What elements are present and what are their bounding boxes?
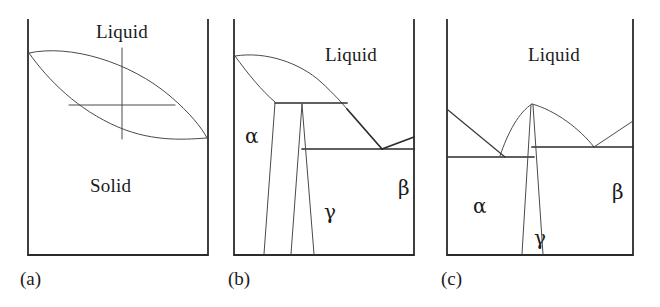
panel-b-liquidus-descending xyxy=(347,109,382,149)
panel-c-liquidus-alpha xyxy=(448,110,505,157)
panel-b-gamma-right-boundary xyxy=(302,104,314,254)
panel-a-solidus-curve xyxy=(29,53,207,139)
panel-c-label-beta: β xyxy=(612,182,624,202)
panel-a-caption: (a) xyxy=(20,269,41,288)
panel-c-caption: (c) xyxy=(441,269,462,288)
panel-c-gamma-dome-left xyxy=(500,104,532,156)
panel-b-gamma-left-boundary xyxy=(291,104,302,254)
panel-c-gamma-dome-right xyxy=(532,104,594,147)
panel-a-group xyxy=(28,20,208,255)
panel-c-label-liquid: Liquid xyxy=(528,45,580,64)
panel-b-alpha-boundary xyxy=(264,103,275,254)
panel-c-label-gamma: γ xyxy=(534,228,546,248)
panel-b-liquidus-rising xyxy=(382,137,414,149)
panel-b-label-liquid: Liquid xyxy=(325,45,377,64)
panel-c-label-alpha: α xyxy=(473,196,487,216)
panel-c-liquidus-beta xyxy=(594,121,633,147)
panel-a-liquidus-curve xyxy=(29,51,207,138)
panel-a-frame xyxy=(28,20,208,255)
panel-b-caption: (b) xyxy=(228,269,250,288)
panel-b-label-beta: β xyxy=(398,178,410,198)
panel-c-gamma-left-boundary xyxy=(522,105,531,254)
panel-a-label-liquid: Liquid xyxy=(96,22,148,41)
phase-diagram-figure: Liquid Solid (a) Liquid α γ β (b) Liquid… xyxy=(0,0,660,307)
panel-b-alpha-solidus xyxy=(235,56,275,102)
panel-a-label-solid: Solid xyxy=(90,176,131,195)
panel-b-label-alpha: α xyxy=(245,126,259,146)
panel-b-label-gamma: γ xyxy=(324,202,336,222)
